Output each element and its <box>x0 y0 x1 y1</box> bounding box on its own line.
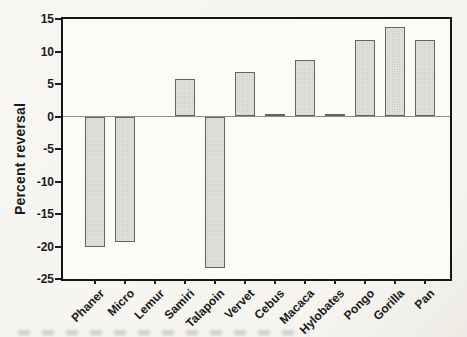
y-tick-label: -10 <box>16 175 54 189</box>
x-tick <box>394 279 396 284</box>
x-tick <box>364 279 366 284</box>
x-tick-label: Pongo <box>342 287 378 323</box>
y-tick <box>55 213 61 215</box>
x-tick <box>184 279 186 284</box>
x-tick <box>424 279 426 284</box>
x-tick <box>244 279 246 284</box>
scan-smudge-artifact <box>18 330 308 335</box>
y-tick <box>55 116 61 118</box>
bar-pan <box>415 40 435 117</box>
y-tick <box>55 51 61 53</box>
y-tick-label: 15 <box>16 12 54 26</box>
x-tick <box>214 279 216 284</box>
y-tick <box>55 148 61 150</box>
bar-talapoin <box>205 117 225 268</box>
x-tick-label: Pan <box>412 287 437 312</box>
x-tick <box>94 279 96 284</box>
x-tick <box>334 279 336 284</box>
bar-hylobates <box>325 114 345 117</box>
bar-samiri <box>175 79 195 117</box>
x-tick <box>154 279 156 284</box>
y-tick <box>55 18 61 20</box>
x-tick-label: Lemur <box>132 287 167 322</box>
y-tick-label: 10 <box>16 45 54 59</box>
bar-macaca <box>295 60 315 117</box>
y-tick-label: -15 <box>16 207 54 221</box>
x-tick <box>274 279 276 284</box>
bar-micro <box>115 117 135 242</box>
y-tick-label: -20 <box>16 240 54 254</box>
x-tick <box>124 279 126 284</box>
x-tick-label: Gorilla <box>371 287 407 323</box>
y-tick <box>55 246 61 248</box>
figure-canvas: Percent reversal 151050-5-10-15-20-25Pha… <box>0 0 467 337</box>
y-tick-label: -5 <box>16 142 54 156</box>
y-tick-label: -25 <box>16 272 54 286</box>
x-tick-label: Vervet <box>223 287 258 322</box>
bar-gorilla <box>385 27 405 116</box>
chart-layer: 151050-5-10-15-20-25PhanerMicroLemurSami… <box>0 0 467 337</box>
bar-phaner <box>85 117 105 247</box>
y-tick-label: 0 <box>16 110 54 124</box>
y-tick <box>55 278 61 280</box>
bar-vervet <box>235 72 255 116</box>
y-tick-label: 5 <box>16 77 54 91</box>
y-tick <box>55 83 61 85</box>
bar-cebus <box>265 114 285 117</box>
x-tick-label: Phaner <box>69 287 107 325</box>
x-tick <box>304 279 306 284</box>
bar-pongo <box>355 40 375 116</box>
y-tick <box>55 181 61 183</box>
